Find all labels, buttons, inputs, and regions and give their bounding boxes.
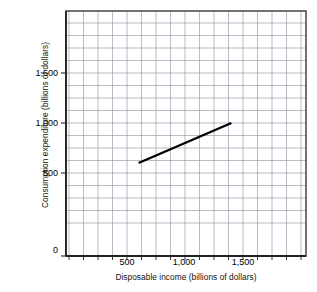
y-axis-title: Consumption expenditure (billions of dol… (40, 18, 50, 233)
x-axis-title: Disposable income (billions of dollars) (66, 272, 306, 282)
x-tick-label-1000: 1,000 (159, 258, 209, 267)
x-tick-label-500: 500 (102, 258, 152, 267)
chart-figure: 1,500 1,000 500 0 500 1,000 1,500 Consum… (0, 0, 317, 292)
x-tick-label-1500: 1,500 (218, 258, 268, 267)
